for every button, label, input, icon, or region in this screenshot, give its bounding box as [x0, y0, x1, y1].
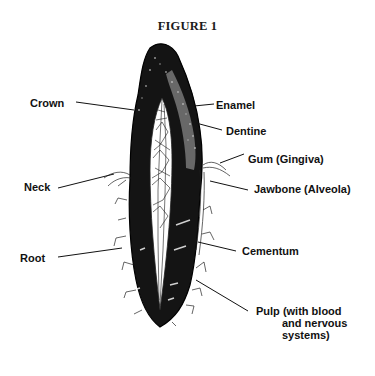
label-pulp: Pulp (with blood and nervous systems) — [256, 305, 347, 341]
label-enamel: Enamel — [216, 99, 255, 111]
label-pulp-line3: systems) — [256, 329, 347, 341]
leader-neck — [58, 174, 114, 188]
leader-cementum — [198, 242, 236, 251]
label-dentine: Dentine — [226, 125, 266, 137]
label-pulp-line2: and nervous — [256, 317, 347, 329]
label-neck: Neck — [24, 181, 50, 193]
label-gum: Gum (Gingiva) — [248, 153, 324, 165]
label-root: Root — [20, 252, 45, 264]
label-cementum: Cementum — [242, 245, 299, 257]
leader-enamel — [194, 104, 214, 106]
label-jawbone: Jawbone (Alveola) — [254, 183, 351, 195]
label-pulp-line1: Pulp (with blood — [256, 305, 342, 317]
leader-jawbone — [210, 181, 248, 190]
label-crown: Crown — [30, 97, 64, 109]
tooth-body — [129, 44, 202, 327]
leader-crown — [76, 102, 134, 110]
leader-gum — [220, 154, 244, 163]
leader-pulp — [196, 280, 248, 311]
leader-root — [58, 248, 122, 257]
